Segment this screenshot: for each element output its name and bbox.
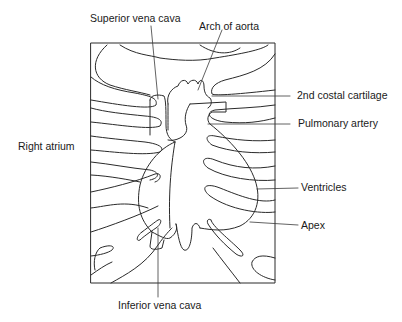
label-apex: Apex <box>301 219 325 231</box>
leader-superior-vena-cava <box>151 26 158 99</box>
label-pulmonary-artery: Pulmonary artery <box>298 117 378 129</box>
right-ribs <box>120 45 275 280</box>
leader-apex <box>250 222 298 225</box>
leader-ventricles <box>257 188 298 189</box>
heart-outline <box>139 80 258 250</box>
label-second-costal-cartilage: 2nd costal cartilage <box>297 89 387 101</box>
heart-thorax-diagram: Superior vena cava Arch of aorta 2nd cos… <box>0 0 402 322</box>
diaphragm-lines <box>111 220 240 283</box>
leader-lines <box>151 26 298 297</box>
label-arch-of-aorta: Arch of aorta <box>199 20 259 32</box>
thorax-frame <box>91 43 275 283</box>
diagram-drawing <box>0 0 402 322</box>
label-inferior-vena-cava: Inferior vena cava <box>118 299 201 311</box>
label-right-atrium: Right atrium <box>18 140 75 152</box>
label-ventricles: Ventricles <box>301 181 347 193</box>
label-superior-vena-cava: Superior vena cava <box>90 12 180 24</box>
